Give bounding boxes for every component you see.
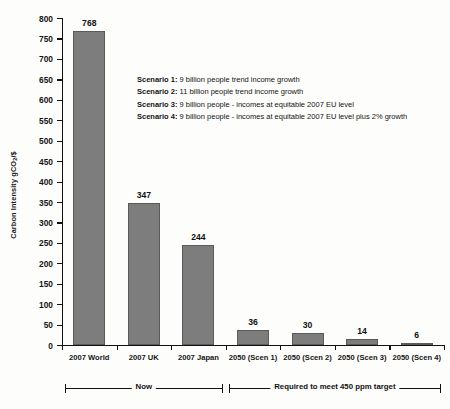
bracket-cap-left [65,384,66,393]
x-axis-tick-label: 2050 (Scen 4) [392,353,441,362]
x-axis-tick [226,345,227,350]
y-axis-tick-label: 250 [39,238,53,248]
y-axis-tick-label: 0 [48,341,53,351]
bar-slot: 244 [171,18,226,345]
legend-row: Scenario 2: 11 billion people trend inco… [137,86,437,98]
legend-row: Scenario 4: 9 billion people - incomes a… [137,111,437,123]
bar [401,343,433,346]
x-axis-tick [62,345,63,350]
x-axis-tick [280,345,281,350]
x-axis-tick-label: 2007 World [69,353,109,362]
legend-row-label: Scenario 4: [137,112,180,121]
y-axis-tick-label: 650 [39,75,53,85]
legend-row-text: 9 billion people - incomes at equitable … [180,100,354,109]
bar [182,245,214,345]
bar-value-label: 14 [357,326,367,336]
bracket-cap-right [440,384,441,393]
y-axis-tick-label: 450 [39,157,53,167]
bar-slot: 347 [117,18,172,345]
bar-value-label: 36 [248,317,258,327]
x-axis-tick [444,345,445,350]
legend-row-label: Scenario 1: [137,75,180,84]
scenario-legend: Scenario 1: 9 billion people trend incom… [137,74,437,124]
bar [346,339,378,345]
legend-row-label: Scenario 3: [137,100,180,109]
y-axis-tick-label: 200 [39,259,53,269]
bar-slot: 14 [335,18,390,345]
y-axis-tick-label: 550 [39,116,53,126]
x-axis-tick [171,345,172,350]
bar-slot: 30 [280,18,335,345]
bracket-cap-left [229,384,230,393]
y-axis-tick-label: 100 [39,300,53,310]
y-axis-tick-label: 150 [39,279,53,289]
x-axis-tick [335,345,336,350]
bar-slot: 6 [389,18,444,345]
legend-row-text: 9 billion people trend income growth [180,75,300,84]
bar-value-label: 768 [82,18,96,28]
x-axis-tick-label: 2050 (Scen 2) [283,353,332,362]
bar-value-label: 347 [137,190,151,200]
y-axis-title-pre: Carbon Intensity gCO [9,161,18,239]
bar-chart: Carbon Intensity gCO2/$ 0501001502002503… [0,0,450,409]
y-axis-tick-label: 500 [39,136,53,146]
bar [73,31,105,345]
x-axis-tick-label: 2007 Japan [178,353,219,362]
group-bracket: Required to meet 450 ppm target [229,383,441,395]
plot-area: 0501001502002503003504004505005506006507… [62,18,444,345]
bracket-label: Required to meet 450 ppm target [270,382,399,391]
y-axis-title-subscript: 2 [12,158,18,161]
bar-value-label: 6 [414,330,419,340]
x-axis-tick-label: 2007 UK [129,353,159,362]
bar-slot: 768 [62,18,117,345]
legend-row-text: 9 billion people - incomes at equitable … [180,112,408,121]
group-bracket: Now [65,383,223,395]
bar-slot: 36 [226,18,281,345]
y-axis-tick-label: 50 [44,320,53,330]
bar [128,203,160,345]
bracket-cap-right [222,384,223,393]
bar-value-label: 30 [303,320,313,330]
x-axis-tick [117,345,118,350]
bars-layer: 7683472443630146 [62,18,444,345]
y-axis-tick-label: 600 [39,95,53,105]
y-axis-tick-label: 350 [39,198,53,208]
y-axis-tick-label: 800 [39,14,53,24]
legend-row: Scenario 1: 9 billion people trend incom… [137,74,437,86]
bar [292,333,324,345]
y-axis-tick-label: 700 [39,54,53,64]
x-axis-tick-label: 2050 (Scen 3) [338,353,387,362]
x-axis-line [62,345,444,346]
bracket-label: Now [132,382,156,391]
y-axis-title: Carbon Intensity gCO2/$ [9,110,18,280]
y-axis-tick-label: 400 [39,177,53,187]
y-axis-tick-label: 750 [39,34,53,44]
legend-row-text: 11 billion people trend income growth [180,87,304,96]
x-axis-tick [389,345,390,350]
legend-row: Scenario 3: 9 billion people - incomes a… [137,99,437,111]
x-axis-tick-label: 2050 (Scen 1) [229,353,278,362]
y-axis-title-post: /$ [9,151,18,157]
bar-value-label: 244 [191,232,205,242]
bar [237,330,269,345]
y-axis-tick-label: 300 [39,218,53,228]
legend-row-label: Scenario 2: [137,87,180,96]
